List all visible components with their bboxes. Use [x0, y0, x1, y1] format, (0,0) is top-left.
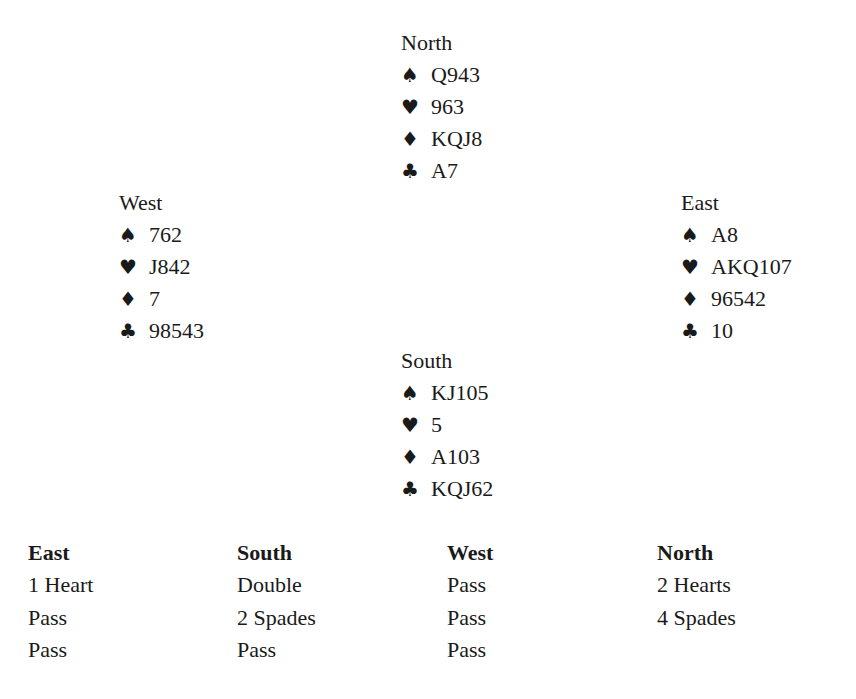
suit-row-clubs: ♣ 10 [681, 315, 792, 347]
bidding-header: West [447, 537, 647, 569]
bidding-header: South [237, 537, 437, 569]
suit-row-diamonds: ♦ KQJ8 [401, 123, 482, 155]
bidding-column-east: East 1 Heart Pass Pass [28, 537, 228, 667]
diamond-icon: ♦ [681, 283, 711, 315]
suit-row-spades: ♠ KJ105 [401, 377, 493, 409]
diamond-icon: ♦ [119, 283, 149, 315]
bidding-column-north: North 2 Hearts 4 Spades [657, 537, 856, 634]
suit-row-hearts: ♥ 963 [401, 91, 482, 123]
suit-row-clubs: ♣ KQJ62 [401, 473, 493, 505]
bid: Pass [237, 634, 437, 667]
diamond-icon: ♦ [401, 441, 431, 473]
cards-diamonds: A103 [431, 441, 480, 473]
seat-label-north: North [401, 27, 482, 59]
seat-label-east: East [681, 187, 792, 219]
suit-row-hearts: ♥ 5 [401, 409, 493, 441]
suit-row-clubs: ♣ 98543 [119, 315, 204, 347]
suit-row-hearts: ♥ AKQ107 [681, 251, 792, 283]
bid: 1 Heart [28, 569, 228, 602]
cards-hearts: 5 [431, 409, 442, 441]
spade-icon: ♠ [401, 59, 431, 91]
spade-icon: ♠ [119, 219, 149, 251]
seat-label-west: West [119, 187, 204, 219]
suit-row-diamonds: ♦ A103 [401, 441, 493, 473]
cards-clubs: KQJ62 [431, 473, 493, 505]
seat-label-south: South [401, 345, 493, 377]
bid: Double [237, 569, 437, 602]
suit-row-diamonds: ♦ 7 [119, 283, 204, 315]
suit-row-spades: ♠ 762 [119, 219, 204, 251]
club-icon: ♣ [681, 315, 711, 347]
cards-diamonds: KQJ8 [431, 123, 482, 155]
heart-icon: ♥ [401, 409, 431, 441]
cards-clubs: 10 [711, 315, 733, 347]
spade-icon: ♠ [681, 219, 711, 251]
bidding-column-west: West Pass Pass Pass [447, 537, 647, 667]
hand-west: West ♠ 762 ♥ J842 ♦ 7 ♣ 98543 [119, 187, 204, 347]
suit-row-spades: ♠ A8 [681, 219, 792, 251]
club-icon: ♣ [119, 315, 149, 347]
heart-icon: ♥ [401, 91, 431, 123]
suit-row-hearts: ♥ J842 [119, 251, 204, 283]
heart-icon: ♥ [681, 251, 711, 283]
cards-spades: KJ105 [431, 377, 488, 409]
bid: Pass [447, 634, 647, 667]
cards-clubs: A7 [431, 155, 458, 187]
bidding-header: North [657, 537, 856, 569]
cards-clubs: 98543 [149, 315, 204, 347]
bid: 2 Spades [237, 602, 437, 635]
suit-row-clubs: ♣ A7 [401, 155, 482, 187]
cards-hearts: AKQ107 [711, 251, 792, 283]
hand-south: South ♠ KJ105 ♥ 5 ♦ A103 ♣ KQJ62 [401, 345, 493, 505]
cards-spades: A8 [711, 219, 738, 251]
cards-diamonds: 7 [149, 283, 160, 315]
bid: Pass [28, 634, 228, 667]
bid: Pass [447, 569, 647, 602]
spade-icon: ♠ [401, 377, 431, 409]
hand-east: East ♠ A8 ♥ AKQ107 ♦ 96542 ♣ 10 [681, 187, 792, 347]
club-icon: ♣ [401, 473, 431, 505]
bid: Pass [28, 602, 228, 635]
bidding-column-south: South Double 2 Spades Pass [237, 537, 437, 667]
bid: 2 Hearts [657, 569, 856, 602]
suit-row-spades: ♠ Q943 [401, 59, 482, 91]
hand-north: North ♠ Q943 ♥ 963 ♦ KQJ8 ♣ A7 [401, 27, 482, 187]
cards-hearts: J842 [149, 251, 191, 283]
diamond-icon: ♦ [401, 123, 431, 155]
suit-row-diamonds: ♦ 96542 [681, 283, 792, 315]
bidding-header: East [28, 537, 228, 569]
cards-diamonds: 96542 [711, 283, 766, 315]
club-icon: ♣ [401, 155, 431, 187]
heart-icon: ♥ [119, 251, 149, 283]
cards-spades: 762 [149, 219, 182, 251]
bid: Pass [447, 602, 647, 635]
cards-hearts: 963 [431, 91, 464, 123]
cards-spades: Q943 [431, 59, 480, 91]
bid: 4 Spades [657, 602, 856, 635]
